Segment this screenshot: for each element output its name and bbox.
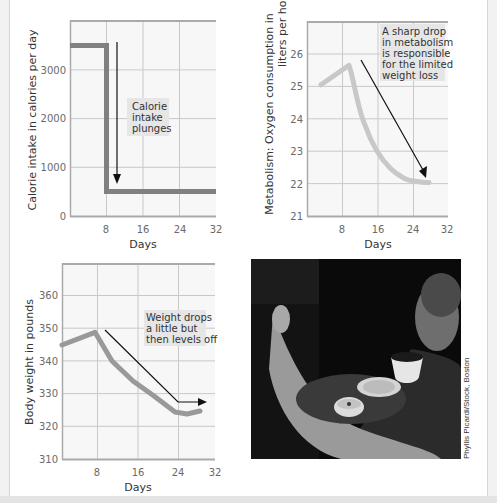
weight-y-ticks: 310 320 330 340 350 360 — [39, 290, 58, 465]
svg-text:24: 24 — [172, 467, 185, 478]
weight-chart: Weight drops a little but then levels of… — [23, 263, 221, 494]
svg-text:25: 25 — [290, 81, 303, 92]
weight-y-label: Body weight in pounds — [23, 299, 36, 425]
svg-text:8: 8 — [103, 224, 109, 235]
metabolism-y-label-line2: liters per hour — [276, 0, 289, 67]
metabolism-x-ticks: 8 16 24 32 — [339, 224, 454, 235]
weight-note-line3: then levels off — [146, 334, 218, 345]
svg-text:32: 32 — [209, 467, 222, 478]
svg-text:0: 0 — [60, 211, 66, 222]
photo — [251, 259, 461, 459]
svg-text:320: 320 — [39, 421, 58, 432]
svg-text:24: 24 — [407, 224, 420, 235]
svg-text:310: 310 — [39, 454, 58, 465]
photo-credit: Phyllis Picardi/Stock, Boston — [462, 358, 471, 459]
svg-text:8: 8 — [94, 467, 100, 478]
svg-text:22: 22 — [290, 179, 303, 190]
svg-text:21: 21 — [290, 211, 303, 222]
weight-note-line1: Weight drops — [146, 312, 212, 323]
weight-note-line2: a little but — [146, 323, 198, 334]
svg-text:8: 8 — [339, 224, 345, 235]
metabolism-y-ticks: 21 22 23 24 25 26 — [290, 49, 303, 222]
svg-text:24: 24 — [174, 224, 187, 235]
metabolism-chart: A sharp drop in metabolism is responsibl… — [263, 0, 453, 251]
svg-text:16: 16 — [132, 467, 145, 478]
svg-text:1000: 1000 — [41, 162, 66, 173]
photo-illustration — [251, 259, 461, 459]
calorie-note-line2: intake — [132, 112, 163, 123]
metabolism-note-line4: for the limited — [382, 59, 453, 70]
svg-text:2000: 2000 — [41, 113, 66, 124]
calorie-y-ticks: 0 1000 2000 3000 — [41, 65, 66, 222]
svg-text:24: 24 — [290, 114, 303, 125]
metabolism-y-label-line1: Metabolism: Oxygen consumption in — [263, 13, 276, 214]
svg-text:360: 360 — [39, 290, 58, 301]
weight-x-label: Days — [124, 481, 152, 494]
metabolism-note-line5: weight loss — [382, 70, 438, 81]
svg-text:16: 16 — [372, 224, 385, 235]
calorie-chart: Calorie intake plunges 0 1000 2000 3000 … — [26, 20, 222, 251]
metabolism-note-line1: A sharp drop — [382, 26, 446, 37]
calorie-x-ticks: 8 16 24 32 — [103, 224, 223, 235]
svg-text:350: 350 — [39, 323, 58, 334]
svg-text:32: 32 — [210, 224, 223, 235]
metabolism-note-line3: is responsible — [382, 48, 451, 59]
metabolism-note-line2: in metabolism — [382, 37, 453, 48]
svg-text:340: 340 — [39, 356, 58, 367]
weight-x-ticks: 8 16 24 32 — [94, 467, 222, 478]
svg-text:3000: 3000 — [41, 65, 66, 76]
calorie-x-label: Days — [129, 238, 157, 251]
svg-text:32: 32 — [441, 224, 454, 235]
svg-text:23: 23 — [290, 146, 303, 157]
calorie-note-line1: Calorie — [132, 101, 167, 112]
svg-text:330: 330 — [39, 388, 58, 399]
calorie-y-label: Calorie intake in calories per day — [26, 29, 39, 211]
calorie-note-line3: plunges — [132, 123, 172, 134]
svg-text:16: 16 — [137, 224, 150, 235]
metabolism-x-label: Days — [364, 238, 392, 251]
svg-text:26: 26 — [290, 49, 303, 60]
